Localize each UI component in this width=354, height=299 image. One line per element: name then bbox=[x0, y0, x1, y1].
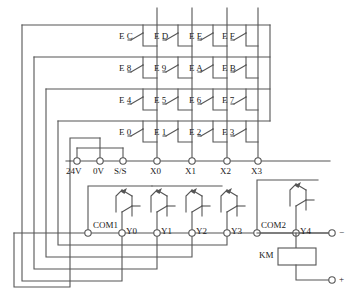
label-terminal-y1: Y1 bbox=[161, 226, 172, 236]
terminal-24v bbox=[74, 158, 80, 164]
circuit-diagram: E C E D E E E F E 8 E 9 E A E B E 4 E 5 … bbox=[0, 0, 354, 299]
switch-label-ED: E D bbox=[154, 31, 168, 41]
label-terminal-24v: 24V bbox=[66, 166, 82, 176]
switch-label-E3: E 3 bbox=[222, 127, 234, 137]
terminal-positive bbox=[329, 277, 335, 283]
switch-E7 bbox=[231, 89, 258, 110]
jumper-0v-return bbox=[70, 138, 100, 161]
label-terminal-com1: COM1 bbox=[93, 220, 118, 230]
label-terminal-x3: X3 bbox=[251, 166, 262, 176]
terminal-0v bbox=[97, 158, 103, 164]
switch-E1 bbox=[163, 121, 192, 142]
switch-label-E6: E 6 bbox=[189, 95, 201, 105]
switch-label-EC: E C bbox=[119, 31, 133, 41]
label-terminal-0v: 0V bbox=[93, 166, 104, 176]
terminal-ss bbox=[120, 158, 126, 164]
label-terminal-x2: X2 bbox=[220, 166, 231, 176]
label-terminal-com2: COM2 bbox=[261, 220, 286, 230]
switch-label-E7: E 7 bbox=[222, 95, 234, 105]
terminal-y2 bbox=[189, 230, 195, 236]
switch-label-EE: E E bbox=[189, 31, 202, 41]
switch-label-E0: E 0 bbox=[119, 127, 131, 137]
terminal-x2 bbox=[224, 158, 230, 164]
label-terminal-y3: Y3 bbox=[231, 226, 242, 236]
terminal-com1 bbox=[85, 230, 91, 236]
km-coil-branch bbox=[278, 233, 332, 280]
switch-label-E5: E 5 bbox=[154, 95, 166, 105]
terminal-y3 bbox=[224, 230, 230, 236]
label-terminal-y2: Y2 bbox=[196, 226, 207, 236]
switch-EF bbox=[231, 25, 258, 46]
terminal-negative bbox=[329, 230, 335, 236]
switch-label-EF: E F bbox=[222, 31, 235, 41]
terminal-x1 bbox=[189, 158, 195, 164]
label-power-negative: − bbox=[339, 227, 344, 237]
switch-E9 bbox=[163, 57, 192, 78]
schematic-canvas bbox=[0, 0, 354, 299]
terminal-x0 bbox=[154, 158, 160, 164]
row-return-0 bbox=[22, 25, 122, 281]
switch-label-EA: E A bbox=[189, 63, 203, 73]
terminal-y1 bbox=[154, 230, 160, 236]
matrix-switches bbox=[128, 25, 258, 142]
switch-label-E4: E 4 bbox=[119, 95, 131, 105]
transistor-y4 bbox=[290, 182, 314, 230]
switch-E8 bbox=[128, 57, 157, 78]
label-terminal-ss: S/S bbox=[114, 166, 127, 176]
label-terminal-y0: Y0 bbox=[126, 226, 137, 236]
label-power-positive: + bbox=[339, 274, 344, 284]
km-coil-body bbox=[278, 248, 316, 265]
km-bottom-lead bbox=[296, 265, 332, 280]
transistor-y2 bbox=[186, 188, 210, 230]
switch-E0 bbox=[128, 121, 157, 142]
terminal-x3 bbox=[255, 158, 261, 164]
label-terminal-y4: Y4 bbox=[300, 226, 311, 236]
label-terminal-x1: X1 bbox=[185, 166, 196, 176]
switch-label-E8: E 8 bbox=[119, 63, 131, 73]
transistor-y3 bbox=[221, 188, 245, 230]
transistor-y0 bbox=[116, 188, 140, 230]
transistor-y1 bbox=[151, 188, 175, 230]
label-terminal-x0: X0 bbox=[150, 166, 161, 176]
label-km-coil: KM bbox=[259, 250, 274, 260]
switch-label-E2: E 2 bbox=[189, 127, 201, 137]
switch-E3 bbox=[231, 121, 258, 142]
terminal-y0 bbox=[119, 230, 125, 236]
switch-label-E1: E 1 bbox=[154, 127, 166, 137]
switch-label-EB: E B bbox=[222, 63, 236, 73]
switch-E5 bbox=[163, 89, 192, 110]
switch-E4 bbox=[128, 89, 157, 110]
switch-label-E9: E 9 bbox=[154, 63, 166, 73]
